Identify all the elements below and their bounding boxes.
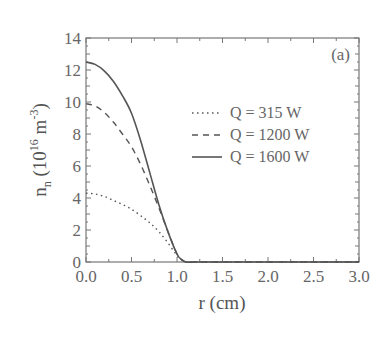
legend-label: Q = 1200 W bbox=[230, 126, 310, 143]
legend: Q = 315 WQ = 1200 WQ = 1600 W bbox=[192, 104, 310, 165]
plot-frame bbox=[86, 38, 359, 262]
y-tick-label: 8 bbox=[73, 125, 82, 144]
y-tick-labels: 02468101214 bbox=[64, 29, 82, 272]
axis-ticks bbox=[86, 38, 359, 262]
line-chart: 0.00.51.01.52.02.53.0 02468101214 Q = 31… bbox=[0, 0, 383, 340]
y-tick-label: 6 bbox=[73, 157, 82, 176]
y-tick-label: 4 bbox=[73, 189, 82, 208]
y-tick-label: 2 bbox=[73, 221, 82, 240]
x-tick-label: 1.0 bbox=[166, 267, 187, 286]
panel-label: (a) bbox=[331, 45, 350, 64]
x-tick-label: 1.5 bbox=[212, 267, 233, 286]
series-line-0 bbox=[86, 193, 359, 262]
y-tick-label: 0 bbox=[73, 253, 82, 272]
plot-border bbox=[86, 38, 359, 262]
x-tick-labels: 0.00.51.01.52.02.53.0 bbox=[75, 267, 369, 286]
x-tick-label: 3.0 bbox=[348, 267, 369, 286]
x-tick-label: 2.5 bbox=[303, 267, 324, 286]
x-tick-label: 0.5 bbox=[121, 267, 142, 286]
legend-label: Q = 1600 W bbox=[230, 148, 310, 165]
x-axis-label: r (cm) bbox=[199, 292, 246, 314]
series-line-1 bbox=[86, 104, 359, 263]
y-tick-label: 10 bbox=[64, 93, 81, 112]
legend-label: Q = 315 W bbox=[230, 104, 302, 121]
data-series bbox=[86, 62, 359, 262]
series-line-2 bbox=[86, 62, 359, 262]
x-tick-label: 2.0 bbox=[257, 267, 278, 286]
y-axis-label: nn (1016 m-3) bbox=[27, 103, 54, 196]
y-tick-label: 14 bbox=[64, 29, 82, 48]
y-tick-label: 12 bbox=[64, 61, 81, 80]
